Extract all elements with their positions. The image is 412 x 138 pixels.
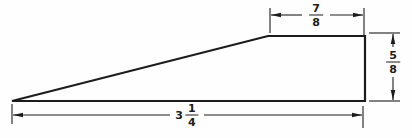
fraction-numerator: 1 [185, 103, 199, 116]
arrowhead-up-icon [391, 34, 396, 44]
fraction-denominator: 4 [185, 116, 199, 128]
dimension-label-top-width: 7 8 [307, 3, 325, 28]
fraction-denominator: 8 [309, 16, 323, 28]
arrowhead-left-icon [13, 113, 23, 118]
fraction: 5 8 [386, 50, 400, 75]
wedge-outline [12, 36, 365, 101]
arrowhead-left-icon [271, 13, 281, 18]
technical-drawing: 7 8 5 8 3 1 4 [0, 0, 412, 138]
arrowhead-down-icon [391, 90, 396, 100]
arrowhead-right-icon [353, 13, 363, 18]
wedge-diagram-canvas [0, 0, 412, 138]
fraction: 1 4 [185, 103, 199, 128]
whole-number: 3 [175, 110, 183, 121]
arrowhead-right-icon [352, 113, 362, 118]
dimension-label-right-height: 5 8 [384, 50, 402, 75]
fraction-numerator: 7 [309, 3, 323, 16]
dimension-label-bottom-length: 3 1 4 [173, 103, 200, 128]
fraction-numerator: 5 [386, 50, 400, 63]
fraction-denominator: 8 [386, 63, 400, 75]
fraction: 7 8 [309, 3, 323, 28]
